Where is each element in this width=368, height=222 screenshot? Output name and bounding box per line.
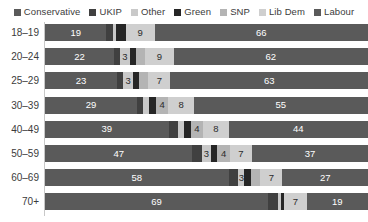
bar-segment-value: 7 [293,197,298,207]
legend-swatch-icon [314,9,321,16]
bar-segment[interactable]: 44 [229,121,368,138]
bar-segment-value: 4 [159,100,164,110]
category-axis-label: 70+ [0,196,44,207]
category-axis-label: 50–59 [0,148,44,159]
bar-segment-value: 66 [256,28,267,38]
bar-segment[interactable]: 29 [45,97,137,114]
stacked-bar: 4734737 [45,145,368,162]
bar-segment[interactable] [229,169,239,186]
legend-item[interactable]: Labour [314,7,354,17]
bar-segment[interactable]: 9 [145,48,173,65]
bar-segment[interactable]: 27 [282,169,368,186]
bar-segment-value: 27 [320,173,331,183]
bar-segment[interactable]: 19 [45,24,106,41]
bar-segment-value: 3 [239,173,244,183]
stacked-bar: 223962 [45,48,368,65]
chart-bar-row: 40–49394844 [0,121,368,138]
bar-segment[interactable]: 4 [191,121,204,138]
chart-bar-row: 60–69583727 [0,169,368,186]
chart-legend: ConservativeUKIPOtherGreenSNPLib DemLabo… [0,4,368,20]
bar-segment-value: 19 [70,28,81,38]
bar-segment-value: 58 [132,173,143,183]
legend-swatch-icon [259,9,266,16]
bar-segment-value: 3 [204,149,209,159]
bar-segment-value: 7 [238,149,243,159]
legend-item[interactable]: Conservative [14,7,81,17]
bar-segment[interactable] [268,193,278,210]
bar-segment[interactable] [251,169,261,186]
bar-segment-value: 4 [194,124,199,134]
bar-segment[interactable]: 3 [202,145,211,162]
bar-segment-value: 44 [293,124,304,134]
legend-item-label: Lib Dem [269,7,305,17]
bar-segment-value: 9 [138,28,143,38]
bar-segment[interactable]: 7 [284,193,307,210]
bar-segment[interactable]: 7 [148,72,170,89]
bar-segment[interactable]: 23 [45,72,117,89]
bar-segment-value: 29 [86,100,97,110]
bar-segment[interactable]: 66 [155,24,368,41]
bar-segment-value: 37 [305,149,316,159]
bar-segment[interactable]: 58 [45,169,229,186]
bar-segment[interactable]: 3 [123,72,132,89]
bar-segment[interactable] [136,48,145,65]
bar-segment-value: 55 [276,100,287,110]
bar-segment-value: 9 [157,52,162,62]
chart-bar-row: 25–29233763 [0,72,368,89]
legend-item-label: Labour [324,7,354,17]
bar-segment-value: 39 [101,124,112,134]
bar-segment[interactable]: 69 [45,193,268,210]
chart-bar-row: 30–39294855 [0,97,368,114]
bar-segment[interactable] [139,72,148,89]
bar-segment[interactable]: 8 [203,121,228,138]
bar-segment[interactable] [169,121,179,138]
bar-segment[interactable]: 47 [45,145,192,162]
chart-bar-row: 70+69719 [0,193,368,210]
bar-segment[interactable] [192,145,201,162]
bar-segment[interactable]: 62 [174,48,368,65]
bar-segment[interactable]: 37 [252,145,368,162]
bar-segment[interactable]: 8 [168,97,193,114]
bar-segment-value: 7 [157,76,162,86]
bar-segment[interactable]: 4 [156,97,169,114]
bar-segment[interactable]: 4 [217,145,230,162]
legend-item-label: Green [184,7,211,17]
chart-bar-row: 18–1919966 [0,24,368,41]
category-axis-label: 40–49 [0,124,44,135]
bar-segment[interactable]: 19 [307,193,368,210]
bar-segment[interactable]: 22 [45,48,114,65]
stacked-bar: 69719 [45,193,368,210]
legend-swatch-icon [14,9,21,16]
legend-swatch-icon [174,9,181,16]
bar-segment[interactable]: 55 [194,97,368,114]
stacked-bar-chart: ConservativeUKIPOtherGreenSNPLib DemLabo… [0,0,368,222]
chart-bar-row: 20–24223962 [0,48,368,65]
category-axis-label: 30–39 [0,100,44,111]
legend-item[interactable]: UKIP [89,7,122,17]
legend-swatch-icon [131,9,138,16]
bar-segment[interactable]: 7 [260,169,282,186]
bar-segment-value: 69 [151,197,162,207]
legend-item-label: SNP [230,7,250,17]
bar-segment-value: 4 [221,149,226,159]
stacked-bar: 394844 [45,121,368,138]
bar-segment[interactable]: 9 [126,24,155,41]
legend-item[interactable]: Green [174,7,211,17]
legend-item-label: Other [141,7,165,17]
bar-segment-value: 62 [265,52,276,62]
bar-segment-value: 23 [76,76,87,86]
bar-segment[interactable]: 39 [45,121,169,138]
legend-item[interactable]: SNP [220,7,250,17]
bar-segment[interactable]: 7 [230,145,252,162]
legend-swatch-icon [89,9,96,16]
legend-item[interactable]: Lib Dem [259,7,305,17]
bar-segment[interactable]: 63 [170,72,368,89]
bar-segment[interactable]: 3 [120,48,129,65]
bar-segment-value: 7 [269,173,274,183]
stacked-bar: 583727 [45,169,368,186]
bar-segment-value: 3 [125,76,130,86]
chart-plot-area: 18–191996620–2422396225–2923376330–39294… [0,22,368,222]
bar-segment-value: 8 [213,124,218,134]
legend-item[interactable]: Other [131,7,165,17]
bar-segment[interactable] [116,24,126,41]
